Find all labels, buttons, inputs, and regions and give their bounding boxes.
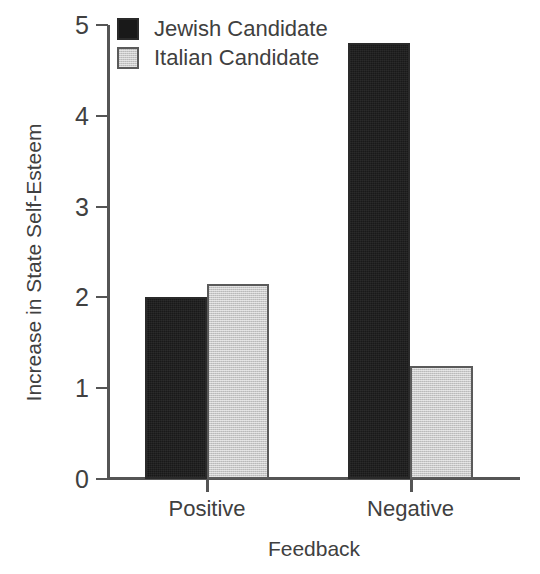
- legend-swatch-icon-jewish-candidate: [117, 18, 139, 40]
- bar: [410, 366, 473, 480]
- legend: Jewish Candidate Italian Candidate: [117, 14, 328, 72]
- legend-item-jewish-candidate: Jewish Candidate: [117, 14, 328, 43]
- x-axis-tick: [410, 479, 413, 492]
- x-axis-label: Feedback: [108, 538, 520, 559]
- legend-item-italian-candidate: Italian Candidate: [117, 43, 328, 72]
- x-axis-tick-label: Negative: [367, 498, 454, 520]
- x-axis-tick-label: Positive: [168, 498, 245, 520]
- legend-swatch-icon-italian-candidate: [117, 47, 139, 69]
- legend-label-italian-candidate: Italian Candidate: [154, 47, 319, 69]
- bar: [348, 43, 410, 479]
- x-axis-tick: [206, 479, 209, 492]
- legend-label-jewish-candidate: Jewish Candidate: [154, 18, 328, 40]
- bar-chart-figure: 012345 Increase in State Self-Esteem Pos…: [0, 0, 540, 574]
- bar: [145, 297, 207, 479]
- bar: [207, 284, 269, 479]
